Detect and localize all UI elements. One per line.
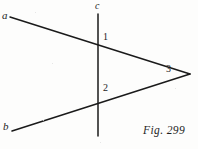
paper-speck (43, 120, 44, 121)
angle-3-label: 3 (166, 64, 171, 74)
paper-speck (52, 63, 53, 64)
figure-caption: Fig. 299 (143, 124, 185, 136)
paper-speck (35, 12, 36, 13)
paper-speck (100, 142, 101, 143)
angle-1-label: 1 (103, 32, 108, 42)
figure-299: a b c 1 2 3 Fig. 299 (0, 0, 198, 149)
paper-speck (175, 88, 176, 89)
ray-b-line (12, 74, 190, 131)
ray-b-label: b (3, 121, 9, 132)
line-c-label: c (95, 1, 99, 11)
angle-2-label: 2 (103, 83, 108, 93)
ray-a-label: a (2, 10, 8, 21)
ray-a-line (10, 17, 190, 74)
